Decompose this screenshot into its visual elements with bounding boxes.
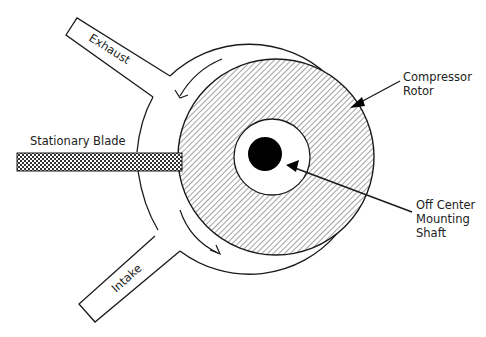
rotor-label-line1: Compressor <box>403 70 472 84</box>
housing-left-upper-arc <box>137 97 153 152</box>
compressor-diagram: Exhaust Intake Stationary Blade Compress… <box>0 0 486 337</box>
intake-port: Intake <box>79 236 180 322</box>
stationary-blade <box>17 153 182 171</box>
shaft-label-line3: Shaft <box>416 226 446 240</box>
shaft-label-line1: Off Center <box>416 198 476 212</box>
intake-label: Intake <box>109 261 145 295</box>
housing-left-lower-arc <box>138 171 158 230</box>
rotor-callout: Compressor Rotor <box>350 70 472 108</box>
stationary-blade-label: Stationary Blade <box>30 134 126 148</box>
mounting-shaft <box>248 137 282 171</box>
rotor-label-line2: Rotor <box>403 84 434 98</box>
shaft-label-line2: Mounting <box>416 212 470 226</box>
exhaust-port: Exhaust <box>66 18 170 97</box>
